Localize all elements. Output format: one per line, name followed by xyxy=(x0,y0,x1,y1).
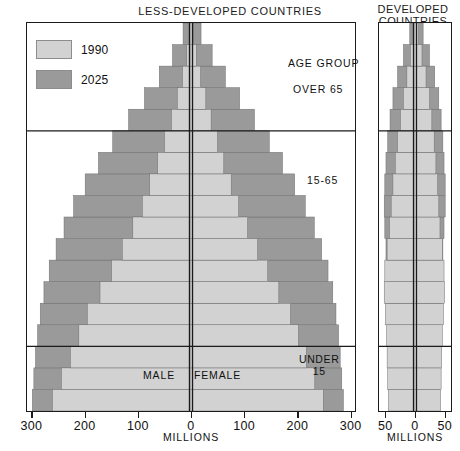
bar-1990-female-8 xyxy=(415,217,440,239)
bar-1990-male-10 xyxy=(393,174,415,196)
bar-1990-male-11 xyxy=(158,152,191,174)
bar-1990-female-5 xyxy=(415,282,445,304)
bar-1990-female-6 xyxy=(191,260,268,282)
bar-1990-female-4 xyxy=(415,303,443,325)
bar-1990-male-8 xyxy=(389,217,415,239)
bar-1990-male-9 xyxy=(391,195,415,217)
bar-1990-female-9 xyxy=(191,195,239,217)
bar-1990-female-7 xyxy=(191,239,258,261)
legend-item-1990: 1990 xyxy=(36,40,109,59)
axis-tick xyxy=(351,412,352,418)
bar-1990-female-0 xyxy=(191,389,323,411)
axis-tick xyxy=(191,412,192,418)
bar-1990-female-2 xyxy=(415,346,442,368)
bar-1990-male-12 xyxy=(165,131,191,153)
bar-1990-male-4 xyxy=(87,303,191,325)
bar-1990-male-10 xyxy=(150,174,191,196)
bar-1990-female-12 xyxy=(191,131,217,153)
bar-1990-female-14 xyxy=(415,88,430,110)
bar-1990-male-12 xyxy=(398,131,415,153)
bar-1990-female-6 xyxy=(415,260,444,282)
left-axis-title: MILLIONS xyxy=(26,431,356,443)
bar-1990-female-3 xyxy=(191,325,298,347)
bar-1990-female-10 xyxy=(191,174,231,196)
bar-1990-male-7 xyxy=(122,239,191,261)
axis-tick xyxy=(445,412,446,418)
bar-1990-male-1 xyxy=(388,368,415,390)
axis-tick xyxy=(385,412,386,418)
bar-1990-male-8 xyxy=(133,217,191,239)
under-15-label-line2: 15 xyxy=(299,365,339,377)
developed-plot-frame xyxy=(378,22,452,412)
legend-label-1990: 1990 xyxy=(81,43,109,57)
developed-pyramid xyxy=(379,23,451,411)
bar-1990-male-6 xyxy=(385,260,415,282)
right-panel-title-line1: DEVELOPED xyxy=(366,3,460,15)
bar-1990-female-11 xyxy=(415,152,436,174)
under-15-label-line1: UNDER xyxy=(299,353,339,365)
axis-tick xyxy=(244,412,245,418)
bar-1990-female-1 xyxy=(415,368,441,390)
over-65-label: OVER 65 xyxy=(293,83,343,95)
bar-1990-male-5 xyxy=(384,282,415,304)
bar-1990-male-0 xyxy=(388,389,415,411)
legend-swatch-1990 xyxy=(36,40,72,59)
male-label: MALE xyxy=(143,369,175,381)
bar-1990-female-8 xyxy=(191,217,248,239)
age-15-65-label: 15-65 xyxy=(307,174,338,186)
bar-1990-male-13 xyxy=(400,109,415,131)
bar-1990-female-7 xyxy=(415,239,442,261)
legend-item-2025: 2025 xyxy=(36,70,109,89)
axis-tick xyxy=(138,412,139,418)
bar-1990-male-13 xyxy=(171,109,191,131)
bar-1990-female-11 xyxy=(191,152,224,174)
bar-1990-female-3 xyxy=(415,325,442,347)
under-15-label: UNDER 15 xyxy=(299,353,339,377)
female-label: FEMALE xyxy=(194,369,241,381)
bar-1990-male-2 xyxy=(387,346,415,368)
bar-1990-female-5 xyxy=(191,282,279,304)
right-axis-title: MILLIONS xyxy=(366,431,460,443)
bar-1990-male-0 xyxy=(52,389,191,411)
bar-1990-male-16 xyxy=(410,45,415,67)
bar-1990-male-4 xyxy=(385,303,415,325)
legend-label-2025: 2025 xyxy=(81,73,109,87)
axis-tick xyxy=(415,412,416,418)
bar-1990-female-10 xyxy=(415,174,438,196)
bar-1990-female-12 xyxy=(415,131,434,153)
bar-1990-male-7 xyxy=(387,239,415,261)
axis-tick xyxy=(297,412,298,418)
bar-1990-female-16 xyxy=(191,45,196,67)
bar-1990-female-9 xyxy=(415,195,439,217)
population-pyramid-figure: LESS-DEVELOPED COUNTRIES DEVELOPED COUNT… xyxy=(0,0,460,451)
bar-1990-male-3 xyxy=(387,325,415,347)
bar-1990-female-14 xyxy=(191,88,206,110)
bar-1990-female-4 xyxy=(191,303,290,325)
bar-1990-male-6 xyxy=(112,260,191,282)
legend-swatch-2025 xyxy=(36,70,72,89)
bar-1990-male-2 xyxy=(70,346,191,368)
bar-1990-male-9 xyxy=(142,195,191,217)
bar-1990-female-13 xyxy=(191,109,211,131)
bar-1990-female-13 xyxy=(415,109,432,131)
bar-1990-male-5 xyxy=(100,282,191,304)
bar-1990-male-11 xyxy=(395,152,415,174)
axis-tick xyxy=(85,412,86,418)
bar-1990-female-2 xyxy=(191,346,306,368)
bar-1990-male-3 xyxy=(79,325,191,347)
age-group-label: AGE GROUP xyxy=(288,57,359,69)
legend: 1990 2025 xyxy=(36,40,109,100)
bar-1990-female-0 xyxy=(415,389,441,411)
axis-tick xyxy=(31,412,32,418)
